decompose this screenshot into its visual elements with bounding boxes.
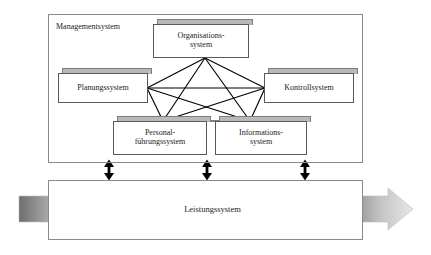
management-system-title: Managementsystem: [56, 22, 120, 31]
organisationssystem-node[interactable]: Organisations- system: [153, 24, 249, 58]
personalfuehrungssystem-node[interactable]: Personal- führungssystem: [113, 121, 207, 155]
diagram-canvas: Managementsystem Leistungssystem Organis…: [0, 0, 431, 255]
kontrollsystem-node[interactable]: Kontrollsystem: [264, 73, 354, 103]
organisationssystem-node-label: Organisations- system: [176, 32, 227, 49]
informationssystem-node[interactable]: Informations- system: [215, 121, 307, 155]
planungssystem-node[interactable]: Planungssystem: [58, 73, 148, 103]
kontrollsystem-node-label: Kontrollsystem: [282, 84, 335, 93]
informationssystem-node-label: Informations- system: [237, 129, 285, 146]
planungssystem-node-label: Planungssystem: [75, 84, 131, 93]
performance-system-title: Leistungssystem: [155, 204, 270, 214]
personalfuehrungssystem-node-label: Personal- führungssystem: [133, 129, 188, 146]
